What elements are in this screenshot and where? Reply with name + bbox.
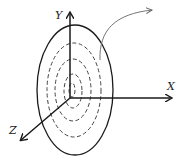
x-axis-label: X — [166, 80, 176, 93]
y-axis-label: Y — [55, 9, 64, 22]
dashed-ellipse-2 — [55, 59, 91, 121]
z-axis — [21, 98, 70, 140]
inner-dashed-ellipses — [47, 43, 101, 137]
dashed-ellipse-3 — [64, 74, 82, 108]
coordinate-diagram: Y X Z — [0, 0, 181, 161]
annotation-arrow-icon — [100, 10, 152, 60]
z-axis-label: Z — [8, 124, 17, 137]
